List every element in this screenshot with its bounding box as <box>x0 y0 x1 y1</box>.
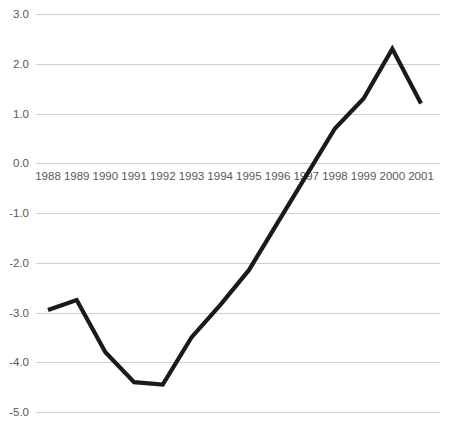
y-axis-tick-label: 0.0 <box>13 157 29 169</box>
y-axis-tick-label: -5.0 <box>9 406 29 418</box>
x-axis-tick-label: 1994 <box>207 170 233 182</box>
x-axis-tick-label: 1990 <box>93 170 119 182</box>
x-axis-tick-label: 2001 <box>408 170 434 182</box>
x-axis-tick-label: 1996 <box>265 170 291 182</box>
y-axis-tick-label: -3.0 <box>9 307 29 319</box>
x-axis-tick-label: 1995 <box>236 170 262 182</box>
y-axis-tick-label: -2.0 <box>9 257 29 269</box>
x-axis-tick-label: 1998 <box>322 170 348 182</box>
y-axis-tick-label: -1.0 <box>9 207 29 219</box>
x-axis-tick-labels: 1988198919901991199219931994199519961997… <box>35 170 434 182</box>
x-axis-tick-label: 1993 <box>179 170 205 182</box>
y-axis-tick-labels: 3.02.01.00.0-1.0-2.0-3.0-4.0-5.0 <box>9 8 29 418</box>
data-series-line <box>48 49 421 385</box>
x-axis-tick-label: 1992 <box>150 170 176 182</box>
line-chart: 3.02.01.00.0-1.0-2.0-3.0-4.0-5.0 1988198… <box>0 0 451 430</box>
y-axis-tick-label: 3.0 <box>13 8 29 20</box>
x-axis-tick-label: 2000 <box>380 170 406 182</box>
x-axis-tick-label: 1989 <box>64 170 90 182</box>
x-axis-tick-label: 1999 <box>351 170 377 182</box>
x-axis-tick-label: 1988 <box>35 170 61 182</box>
x-axis-tick-label: 1991 <box>121 170 147 182</box>
chart-canvas: 3.02.01.00.0-1.0-2.0-3.0-4.0-5.0 1988198… <box>0 0 451 430</box>
y-axis-tick-label: -4.0 <box>9 356 29 368</box>
y-axis-tick-label: 2.0 <box>13 58 29 70</box>
y-axis-tick-label: 1.0 <box>13 108 29 120</box>
series-group <box>48 49 421 385</box>
